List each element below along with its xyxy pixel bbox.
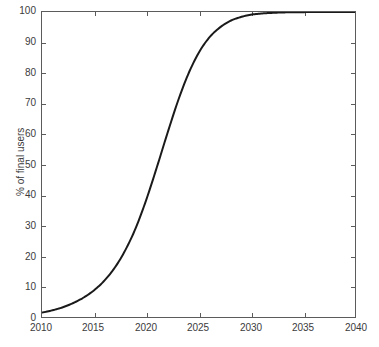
x-tick-label-2035: 2035 [283, 323, 323, 333]
y-tick-label-50: 50 [8, 160, 36, 170]
figure-canvas: % of final users 100 90 80 70 60 50 40 3… [0, 0, 379, 347]
y-tick-label-70: 70 [8, 98, 36, 108]
y-tick-label-90: 90 [8, 37, 36, 47]
y-tick-label-100: 100 [8, 6, 36, 16]
y-tick-label-60: 60 [8, 129, 36, 139]
x-tick-label-2025: 2025 [178, 323, 218, 333]
y-tick-label-40: 40 [8, 190, 36, 200]
x-tick-label-2015: 2015 [73, 323, 113, 333]
y-tick-label-20: 20 [8, 252, 36, 262]
x-tick-label-2030: 2030 [231, 323, 271, 333]
y-tick-label-10: 10 [8, 282, 36, 292]
x-tick-label-2010: 2010 [21, 323, 61, 333]
x-tick-label-2020: 2020 [126, 323, 166, 333]
x-tick-label-2040: 2040 [336, 323, 376, 333]
y-tick-label-30: 30 [8, 221, 36, 231]
adoption-curve-svg [42, 12, 355, 317]
plot-area [41, 11, 356, 318]
y-tick-label-80: 80 [8, 68, 36, 78]
adoption-curve-line [42, 12, 355, 312]
